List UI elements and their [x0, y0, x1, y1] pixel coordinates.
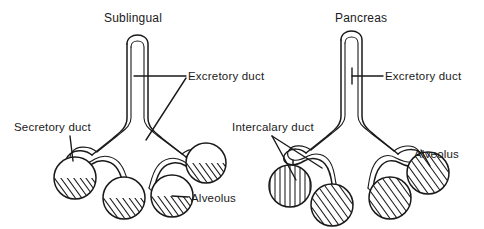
label-alveolus-left: Alveolus — [191, 192, 236, 204]
leader-intercalary-duct-b — [272, 136, 322, 168]
panel-pancreas: Pancreas Excretory duct Intercalary duct… — [232, 11, 462, 229]
alveolus — [45, 157, 104, 208]
gland-duct-diagram: Sublingual Excretory duct Secretory duct… — [0, 0, 484, 229]
pancreas-excretory-duct — [306, 31, 398, 154]
label-intercalary-duct: Intercalary duct — [232, 121, 314, 133]
label-secretory-duct: Secretory duct — [14, 121, 92, 133]
alveolus — [94, 177, 153, 228]
label-excretory-duct-right: Excretory duct — [385, 70, 462, 82]
leader-excretory-duct-branch — [146, 78, 186, 140]
sublingual-excretory-duct — [92, 35, 186, 157]
alveolus — [265, 160, 311, 212]
panel-title-sublingual: Sublingual — [104, 11, 162, 25]
label-excretory-duct-left: Excretory duct — [188, 70, 265, 82]
panel-sublingual: Sublingual Excretory duct Secretory duct… — [14, 11, 265, 228]
sublingual-alveoli — [45, 143, 236, 228]
leader-alveolus-left — [172, 196, 188, 197]
diagram-canvas: Sublingual Excretory duct Secretory duct… — [0, 0, 484, 229]
panel-title-pancreas: Pancreas — [335, 11, 387, 25]
label-alveolus-right: Alveolus — [414, 148, 459, 160]
